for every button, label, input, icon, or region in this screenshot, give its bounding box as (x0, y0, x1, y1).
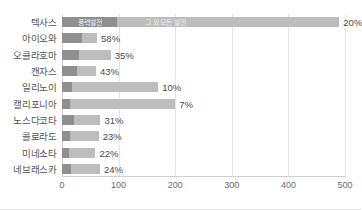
bar-segment-other[interactable] (74, 115, 101, 125)
bar-segment-wind[interactable] (62, 131, 70, 141)
value-label: 31% (104, 114, 123, 125)
bar-segment-wind[interactable] (62, 115, 74, 125)
bar-segment-wind[interactable] (62, 164, 71, 174)
x-tick-label: 400 (281, 180, 296, 190)
bar-segment-other[interactable] (79, 50, 111, 60)
category-label: 텍사스 (31, 15, 57, 29)
stacked-bar[interactable] (62, 131, 99, 141)
stacked-bar[interactable] (62, 66, 96, 76)
category-label: 미네소타 (22, 146, 57, 160)
plot-area: 텍사스20%풍력발전그 외 모든 발전아이오와58%오클라호마35%캔자스43%… (62, 14, 345, 177)
bar-segment-wind[interactable] (62, 17, 117, 27)
stacked-bar[interactable] (62, 33, 97, 43)
category-label: 네브래스카 (13, 162, 57, 176)
bar-segment-wind[interactable] (62, 99, 70, 109)
stacked-bar[interactable] (62, 82, 158, 92)
bar-segment-wind[interactable] (62, 66, 77, 76)
stacked-bar[interactable] (62, 17, 339, 27)
bar-row: 네브래스카24% (62, 161, 345, 177)
bar-segment-other[interactable] (117, 17, 339, 27)
x-tick-label: 500 (337, 180, 352, 190)
bar-segment-wind[interactable] (62, 50, 79, 60)
bar-segment-other[interactable] (71, 164, 100, 174)
bar-segment-other[interactable] (69, 148, 95, 158)
bar-segment-wind[interactable] (62, 148, 69, 158)
value-label: 10% (162, 82, 181, 93)
x-tick-label: 100 (111, 180, 126, 190)
value-label: 43% (100, 66, 119, 77)
bar-row: 텍사스20%풍력발전그 외 모든 발전 (62, 14, 345, 30)
stacked-bar[interactable] (62, 50, 111, 60)
category-label: 노스다코타 (13, 113, 57, 127)
value-label: 7% (179, 98, 193, 109)
category-label: 콜로라도 (22, 129, 57, 143)
bar-row: 오클라호마35% (62, 47, 345, 63)
gridline-500 (345, 14, 346, 177)
bar-row: 캘리포니아7% (62, 96, 345, 112)
value-label: 24% (104, 163, 123, 174)
bar-segment-other[interactable] (82, 33, 97, 43)
x-axis-tick-labels: 0100200300400500 (62, 180, 345, 194)
x-tick-label: 300 (224, 180, 239, 190)
category-label: 일리노이 (22, 80, 57, 94)
x-tick-label: 200 (168, 180, 183, 190)
bar-segment-wind[interactable] (62, 33, 82, 43)
value-label: 22% (99, 147, 118, 158)
value-label: 20% (343, 17, 362, 28)
value-label: 35% (115, 49, 134, 60)
bar-row: 콜로라도23% (62, 128, 345, 144)
bar-segment-wind[interactable] (62, 82, 72, 92)
category-label: 아이오와 (22, 31, 57, 45)
bar-row: 노스다코타31% (62, 112, 345, 128)
bar-row: 캔자스43% (62, 63, 345, 79)
bar-segment-other[interactable] (77, 66, 96, 76)
x-tick-label: 0 (59, 180, 64, 190)
bar-segment-other[interactable] (72, 82, 159, 92)
bar-row: 미네소타22% (62, 144, 345, 160)
bar-segment-other[interactable] (70, 99, 175, 109)
bar-row: 아이오와58% (62, 30, 345, 46)
category-label: 캘리포니아 (13, 97, 57, 111)
stacked-bar[interactable] (62, 115, 100, 125)
bar-segment-other[interactable] (70, 131, 98, 141)
bar-rows: 텍사스20%풍력발전그 외 모든 발전아이오와58%오클라호마35%캔자스43%… (62, 14, 345, 177)
stacked-bar[interactable] (62, 148, 95, 158)
category-label: 캔자스 (31, 64, 57, 78)
stacked-bar[interactable] (62, 164, 100, 174)
bar-row: 일리노이10% (62, 79, 345, 95)
category-label: 오클라호마 (13, 48, 57, 62)
stacked-bar[interactable] (62, 99, 175, 109)
value-label: 58% (101, 33, 120, 44)
value-label: 23% (103, 131, 122, 142)
